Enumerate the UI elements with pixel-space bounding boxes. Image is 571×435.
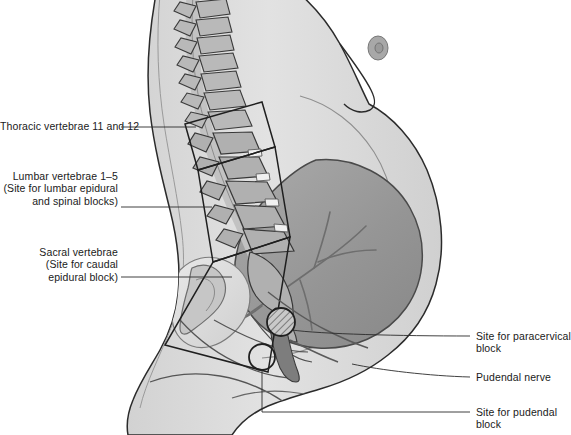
paracervical-site-marker — [267, 308, 295, 336]
label-paracervical-block: Site for paracervical block — [476, 330, 557, 355]
label-thoracic-vertebrae: Thoracic vertebrae 11 and 12 — [0, 120, 118, 132]
label-lumbar-vertebrae: Lumbar vertebrae 1–5 (Site for lumbar ep… — [0, 170, 118, 207]
label-pudendal-block: Site for pudendal block — [476, 406, 557, 431]
label-sacral-vertebrae: Sacral vertebrae (Site for caudal epidur… — [0, 246, 118, 283]
label-pudendal-nerve: Pudendal nerve — [476, 371, 557, 383]
